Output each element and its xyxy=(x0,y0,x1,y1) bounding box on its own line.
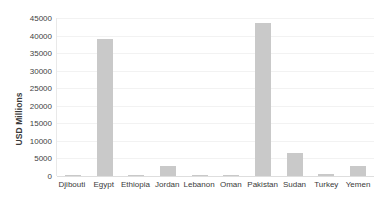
bar[interactable] xyxy=(287,153,303,176)
plot-area xyxy=(56,18,374,176)
y-axis-tick-label: 15000 xyxy=(30,119,52,128)
bar[interactable] xyxy=(223,175,239,176)
x-axis-tick-label: Yemen xyxy=(342,179,374,199)
x-axis-tick-labels: DjiboutiEgyptEthiopiaJordanLebanonOmanPa… xyxy=(56,179,374,199)
y-axis-tick-label: 40000 xyxy=(30,31,52,40)
x-axis-tick-label: Egypt xyxy=(88,179,120,199)
bar-slot xyxy=(184,18,216,176)
bar[interactable] xyxy=(128,175,144,176)
y-axis-tick-label: 35000 xyxy=(30,49,52,58)
bar-slot xyxy=(216,18,248,176)
y-axis-tick-label: 10000 xyxy=(30,136,52,145)
y-axis-tick-label: 20000 xyxy=(30,101,52,110)
bar-series xyxy=(57,18,374,176)
bar[interactable] xyxy=(318,174,334,176)
x-axis-tick-label: Pakistan xyxy=(247,179,279,199)
bar-slot xyxy=(247,18,279,176)
bar-slot xyxy=(342,18,374,176)
bar-slot xyxy=(152,18,184,176)
y-axis-tick-label: 5000 xyxy=(34,154,52,163)
x-axis-tick-label: Sudan xyxy=(279,179,311,199)
y-axis-tick-label: 30000 xyxy=(30,66,52,75)
bar-slot xyxy=(57,18,89,176)
bar-slot xyxy=(120,18,152,176)
y-axis-tick-label: 25000 xyxy=(30,84,52,93)
bar-chart: USD Millions 450004000035000300002500020… xyxy=(0,0,384,217)
x-axis-tick-label: Oman xyxy=(215,179,247,199)
bar[interactable] xyxy=(65,175,81,176)
x-axis-tick-label: Lebanon xyxy=(183,179,215,199)
bar[interactable] xyxy=(192,175,208,176)
x-axis-tick-label: Jordan xyxy=(151,179,183,199)
bar[interactable] xyxy=(160,166,176,176)
bar[interactable] xyxy=(97,39,113,176)
axis-baseline xyxy=(57,176,374,177)
bar[interactable] xyxy=(255,23,271,176)
x-axis-tick-label: Ethiopia xyxy=(120,179,152,199)
y-axis-tick-label: 45000 xyxy=(30,14,52,23)
bar-slot xyxy=(311,18,343,176)
bar[interactable] xyxy=(350,166,366,176)
y-axis-tick-label: 0 xyxy=(48,172,52,181)
x-axis-tick-label: Djibouti xyxy=(56,179,88,199)
y-axis-tick-labels: 4500040000350003000025000200001500010000… xyxy=(12,18,52,176)
bar-slot xyxy=(279,18,311,176)
bar-slot xyxy=(89,18,121,176)
x-axis-tick-label: Turkey xyxy=(310,179,342,199)
